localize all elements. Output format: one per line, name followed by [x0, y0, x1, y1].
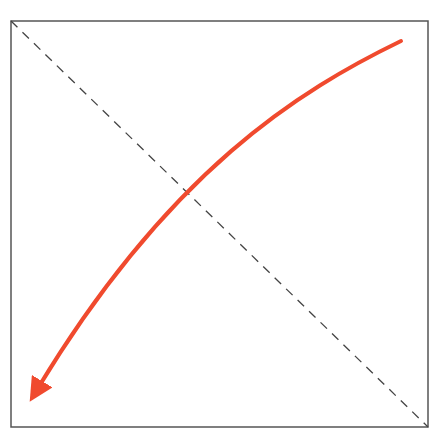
red-curved-arrow — [38, 41, 401, 388]
dashed-diagonal-line — [11, 21, 428, 427]
diagram-canvas — [0, 0, 441, 441]
